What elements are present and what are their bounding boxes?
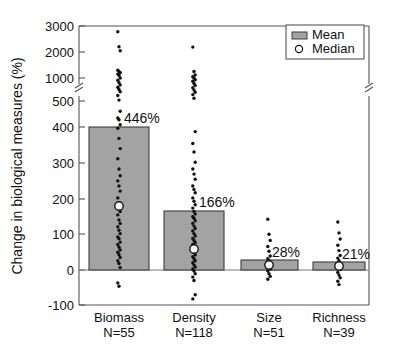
scatter-point — [117, 98, 120, 101]
scatter-point — [267, 250, 270, 253]
scatter-point — [119, 232, 122, 235]
value-label-richness: 21% — [342, 246, 370, 262]
y-tick-label: 0 — [67, 263, 74, 278]
scatter-point — [194, 212, 197, 215]
scatter-point — [194, 272, 197, 275]
scatter-point — [116, 213, 119, 216]
scatter-point — [191, 196, 194, 199]
scatter-point — [337, 283, 340, 286]
chart-figure: 3000 2000 1000 500 400 300 200 100 0 -10… — [0, 0, 395, 354]
value-label-density: 166% — [199, 194, 235, 210]
bar-chart-svg: 3000 2000 1000 500 400 300 200 100 0 -10… — [0, 0, 395, 354]
scatter-point — [194, 203, 197, 206]
mean-swatch-icon — [292, 32, 307, 39]
x-category-sublabel: N=55 — [103, 325, 134, 340]
median-circle-icon — [295, 45, 302, 52]
scatter-point — [191, 184, 194, 187]
scatter-point — [192, 150, 195, 153]
scatter-point — [119, 110, 122, 113]
x-category-label: Richness — [312, 310, 366, 325]
x-category-sublabel: N=118 — [175, 325, 213, 340]
scatter-point — [192, 70, 195, 73]
y-tick-label: 100 — [52, 227, 74, 242]
scatter-point — [119, 189, 122, 192]
scatter-point — [194, 191, 197, 194]
scatter-point — [117, 262, 120, 265]
scatter-point — [194, 161, 197, 164]
legend-label-median: Median — [312, 41, 355, 56]
scatter-points-layer — [116, 30, 342, 301]
scatter-point — [117, 237, 120, 240]
legend-label-mean: Mean — [312, 27, 345, 42]
y-axis-title: Change in biological measures (%) — [9, 57, 25, 274]
scatter-point — [267, 233, 270, 236]
y-tick-label: 400 — [52, 120, 74, 135]
scatter-point — [191, 167, 194, 170]
scatter-point — [119, 266, 122, 269]
scatter-point — [194, 234, 197, 237]
scatter-point — [337, 231, 340, 234]
scatter-point — [119, 49, 122, 52]
x-category-sublabel: N=39 — [323, 325, 354, 340]
scatter-point — [116, 179, 119, 182]
scatter-point — [119, 256, 122, 259]
median-marker-biomass[interactable] — [115, 202, 123, 210]
value-labels: 446% 166% 28% 21% — [124, 110, 370, 262]
scatter-point — [269, 275, 272, 278]
value-label-biomass: 446% — [124, 110, 160, 126]
scatter-point — [116, 225, 119, 228]
scatter-point — [336, 220, 339, 223]
scatter-point — [116, 94, 119, 97]
scatter-point — [192, 188, 195, 191]
scatter-point — [266, 245, 269, 248]
value-label-size: 28% — [272, 244, 300, 260]
scatter-point — [194, 178, 197, 181]
y-tick-label: 3000 — [45, 19, 74, 34]
scatter-point — [191, 93, 194, 96]
scatter-point — [194, 130, 197, 133]
x-category-label: Size — [256, 310, 281, 325]
scatter-point — [117, 167, 120, 170]
scatter-point — [119, 222, 122, 225]
scatter-point — [116, 127, 119, 130]
median-marker-size[interactable] — [265, 261, 273, 269]
scatter-point — [337, 249, 340, 252]
scatter-point — [119, 90, 122, 93]
y-tick-label: 200 — [52, 192, 74, 207]
scatter-point — [117, 137, 120, 140]
scatter-point — [116, 281, 119, 284]
y-tick-label: 2000 — [45, 45, 74, 60]
scatter-point — [116, 196, 119, 199]
scatter-point — [194, 219, 197, 222]
median-marker-richness[interactable] — [335, 262, 343, 270]
scatter-point — [194, 227, 197, 230]
scatter-point — [192, 172, 195, 175]
axis-break-right-icon — [365, 83, 373, 92]
scatter-point — [119, 248, 122, 251]
scatter-point — [192, 97, 195, 100]
legend[interactable]: Mean Median — [286, 25, 364, 59]
x-category-label: Density — [172, 310, 216, 325]
scatter-point — [192, 200, 195, 203]
scatter-point — [191, 206, 194, 209]
scatter-point — [119, 174, 122, 177]
scatter-point — [191, 297, 194, 300]
scatter-point — [191, 45, 194, 48]
scatter-point — [192, 279, 195, 282]
scatter-point — [119, 147, 122, 150]
scatter-point — [339, 276, 342, 279]
y-tick-label: 300 — [52, 156, 74, 171]
axis-break-left-icon — [75, 83, 83, 92]
median-marker-density[interactable] — [190, 245, 198, 253]
scatter-point — [266, 218, 269, 221]
scatter-point — [191, 142, 194, 145]
scatter-point — [339, 237, 342, 240]
scatter-point — [194, 293, 197, 296]
scatter-point — [117, 218, 120, 221]
scatter-point — [266, 278, 269, 281]
scatter-point — [336, 244, 339, 247]
scatter-point — [117, 45, 120, 48]
scatter-point — [116, 30, 119, 33]
y-axis-tick-labels: 3000 2000 1000 500 400 300 200 100 0 -10… — [45, 19, 74, 313]
x-category-label: Biomass — [94, 310, 144, 325]
